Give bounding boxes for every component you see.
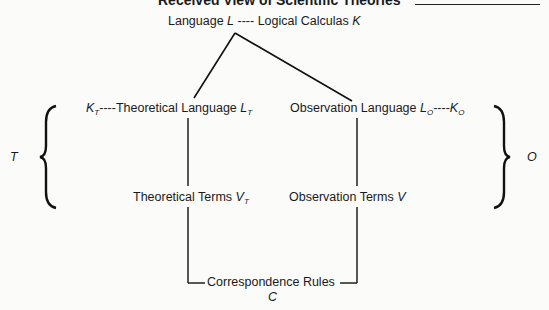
node-correspondence-rules: Correspondence Rules bbox=[207, 275, 335, 289]
connector-lines bbox=[0, 0, 549, 310]
node-observation-language: Observation Language LO----KO bbox=[290, 101, 464, 117]
node-theoretical-language: KT----Theoretical Language LT bbox=[86, 101, 252, 117]
brace-label-right: O bbox=[527, 150, 537, 164]
node-theoretical-terms: Theoretical Terms VT bbox=[133, 190, 249, 206]
node-language: Language L ---- Logical Calculas K bbox=[168, 14, 361, 28]
correspondence-symbol: C bbox=[268, 290, 277, 304]
node-observation-terms: Observation Terms V bbox=[289, 190, 406, 204]
brace-label-left: T bbox=[10, 150, 18, 164]
